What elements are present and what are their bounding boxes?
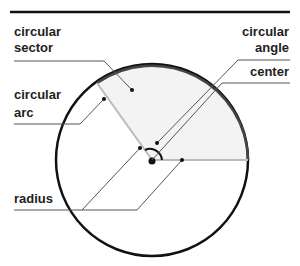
angle-dot (155, 141, 159, 145)
center-dot (149, 158, 156, 165)
circular-sector-fill (97, 66, 248, 160)
label-angle-2: angle (255, 40, 289, 55)
sector-dot (130, 88, 134, 92)
label-arc-2: arc (14, 105, 34, 120)
label-arc-1: circular (14, 87, 61, 102)
radius-dot-slanted (138, 146, 142, 150)
label-sector-2: sector (14, 40, 53, 55)
label-radius: radius (14, 191, 53, 206)
label-center: center (250, 64, 289, 79)
arc-dot (102, 97, 106, 101)
label-angle-1: circular (242, 24, 289, 39)
label-sector-1: circular (14, 24, 61, 39)
circle-parts-diagram: circular sector circular arc circular an… (0, 0, 300, 266)
radius-dot-horizontal (180, 158, 184, 162)
leader-radius-branch (82, 148, 140, 210)
